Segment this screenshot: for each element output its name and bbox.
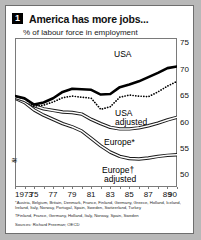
y-axis: 757065605550 [178, 31, 194, 191]
x-tick-mark [25, 187, 26, 189]
x-tick-mark [15, 187, 16, 189]
chart-subtitle: % of labour force in employment [23, 28, 138, 37]
y-tick-label: 65 [180, 91, 189, 100]
x-tick-label: 83 [106, 190, 115, 199]
x-tick-mark [34, 187, 35, 189]
x-tick-mark [139, 187, 140, 189]
y-tick-label: 70 [180, 65, 189, 74]
x-tick-label: 75 [29, 190, 38, 199]
x-tick-mark [82, 187, 83, 189]
x-tick-mark [148, 187, 149, 189]
series-label-usa-adjusted-2: adjusted [115, 118, 147, 127]
series-label-usa: USA [114, 50, 131, 59]
x-tick-mark [167, 187, 168, 189]
y-tick-label: 60 [180, 118, 189, 127]
y-tick-label: 75 [180, 38, 189, 47]
chart-number-badge: 1 [12, 13, 23, 24]
x-tick-mark [63, 187, 64, 189]
x-tick-label: 81 [87, 190, 96, 199]
line-usa [15, 67, 177, 105]
plot-lines [15, 38, 177, 186]
x-axis: 1973757779818385878990 [15, 186, 177, 201]
footnote-star: *Austria, Belgium, Britain, Denmark, Fra… [15, 200, 187, 210]
x-tick-label: 85 [125, 190, 134, 199]
chart-source: Sources: Richard Freeman; OECD [15, 222, 187, 227]
axis-break-icon: ≋ [11, 156, 18, 165]
x-tick-mark [158, 187, 159, 189]
y-tick-label: 50 [180, 170, 189, 179]
chart-header: 1 America has more jobs... [12, 11, 189, 26]
x-tick-label: 79 [68, 190, 77, 199]
y-tick-label: 55 [180, 144, 189, 153]
x-tick-mark [101, 187, 102, 189]
line-usa-adjusted [15, 81, 177, 109]
chart-title: America has more jobs... [29, 13, 149, 25]
x-tick-mark [44, 187, 45, 189]
x-tick-label: 77 [49, 190, 58, 199]
footnote-dagger: †Finland, France, Germany, Holland, Ital… [15, 213, 187, 218]
x-tick-mark [177, 187, 178, 189]
x-tick-mark [110, 187, 111, 189]
x-tick-mark [120, 187, 121, 189]
chart-figure: 1 America has more jobs... % of labour f… [5, 5, 194, 234]
x-tick-label: 87 [144, 190, 153, 199]
x-tick-mark [129, 187, 130, 189]
chart-footnotes: *Austria, Belgium, Britain, Denmark, Fra… [15, 200, 187, 227]
x-tick-mark [53, 187, 54, 189]
x-tick-label: 90 [168, 190, 177, 199]
series-label-europe: Europe* [104, 138, 135, 147]
x-tick-mark [72, 187, 73, 189]
x-tick-mark [91, 187, 92, 189]
plot-area: USA USA adjusted Europe* Europe† adjuste… [15, 38, 177, 186]
series-label-europe-adjusted-2: adjusted [104, 175, 136, 184]
